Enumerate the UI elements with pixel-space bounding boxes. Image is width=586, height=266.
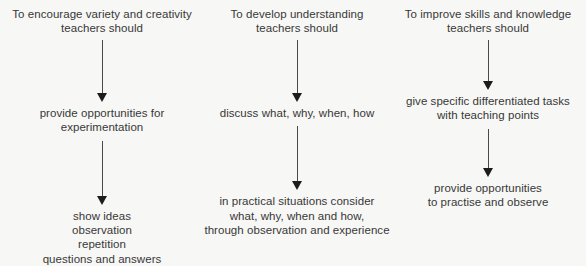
arrow-shaft xyxy=(102,40,103,94)
column-header-text: To develop understanding teachers should xyxy=(231,7,364,36)
arrow-head-icon xyxy=(483,168,493,177)
column-header-text: To improve skills and knowledge teachers… xyxy=(405,7,571,36)
column-bottom-text: in practical situations consider what, w… xyxy=(204,194,389,237)
arrow-head-icon xyxy=(292,181,302,190)
column-bottom-text: show ideas observation repetition questi… xyxy=(43,209,162,266)
arrow-shaft xyxy=(297,126,298,182)
arrow-head-icon xyxy=(97,93,107,102)
flow-column-develop-understanding: To develop understanding teachers should… xyxy=(204,0,390,237)
flow-column-encourage-variety-creativity: To encourage variety and creativity teac… xyxy=(0,0,204,266)
arrow-shaft xyxy=(102,141,103,197)
arrow-head-icon xyxy=(292,93,302,102)
column-header-text: To encourage variety and creativity teac… xyxy=(12,7,191,36)
arrow-head-icon xyxy=(483,81,493,90)
arrow-head-icon xyxy=(97,196,107,205)
column-middle-text: discuss what, why, when, how xyxy=(220,106,375,120)
arrow-middle-to-bottom xyxy=(483,129,494,177)
arrow-shaft xyxy=(488,129,489,169)
arrow-middle-to-bottom xyxy=(97,141,108,205)
arrow-shaft xyxy=(297,40,298,94)
arrow-header-to-middle xyxy=(483,40,494,90)
arrow-header-to-middle xyxy=(292,40,303,102)
flow-column-improve-skills-knowledge: To improve skills and knowledge teachers… xyxy=(390,0,586,209)
arrow-header-to-middle xyxy=(97,40,108,102)
column-bottom-text: provide opportunities to practise and ob… xyxy=(428,181,549,210)
arrow-shaft xyxy=(488,40,489,82)
arrow-middle-to-bottom xyxy=(292,126,303,190)
column-middle-text: provide opportunities for experimentatio… xyxy=(0,106,204,135)
column-middle-text: give specific differentiated tasks with … xyxy=(406,94,570,123)
